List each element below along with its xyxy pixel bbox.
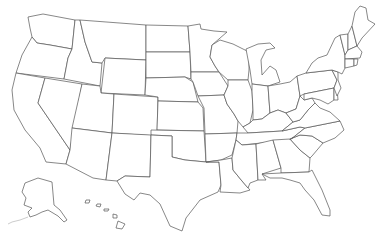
west-states: [12, 14, 158, 181]
state-alaska[interactable]: [22, 178, 67, 222]
state-wyoming[interactable]: [101, 58, 146, 95]
state-arizona[interactable]: [66, 128, 112, 180]
state-new-york[interactable]: [306, 35, 345, 74]
state-michigan[interactable]: [246, 43, 280, 86]
northeast-states: [297, 6, 375, 104]
state-north-dakota[interactable]: [146, 25, 190, 52]
hawaii-island-2[interactable]: [96, 204, 101, 207]
state-connecticut[interactable]: [345, 59, 354, 68]
state-florida[interactable]: [262, 170, 330, 216]
non-contiguous-states: [8, 178, 125, 229]
hawaii-island-4[interactable]: [113, 214, 117, 218]
hawaii-island-1[interactable]: [85, 200, 90, 203]
state-iowa[interactable]: [191, 72, 228, 96]
hawaii-island-3[interactable]: [104, 209, 109, 211]
state-montana[interactable]: [80, 20, 146, 63]
state-new-mexico[interactable]: [106, 133, 151, 181]
state-kansas[interactable]: [157, 101, 204, 131]
us-states-outline-map: [0, 0, 382, 239]
state-south-dakota[interactable]: [146, 52, 191, 79]
aleutian-islands: [8, 217, 28, 224]
hawaii-island-5[interactable]: [116, 221, 125, 229]
state-maine[interactable]: [352, 6, 375, 46]
state-rhode-island[interactable]: [354, 59, 358, 66]
